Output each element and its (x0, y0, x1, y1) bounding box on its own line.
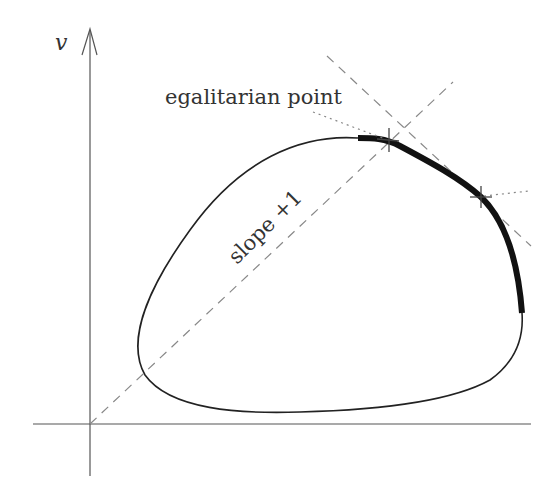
egalitarian-leader-line (313, 112, 385, 139)
egalitarian-point-label: egalitarian point (165, 85, 343, 109)
second-point-leader-line (484, 191, 529, 196)
feasible-set-curve (138, 138, 522, 413)
y-axis-label: v (55, 30, 68, 55)
pareto-frontier (358, 138, 522, 313)
slope-line-label: slope +1 (224, 185, 307, 268)
bargaining-diagram: v egalitarian point slope +1 (0, 0, 541, 499)
